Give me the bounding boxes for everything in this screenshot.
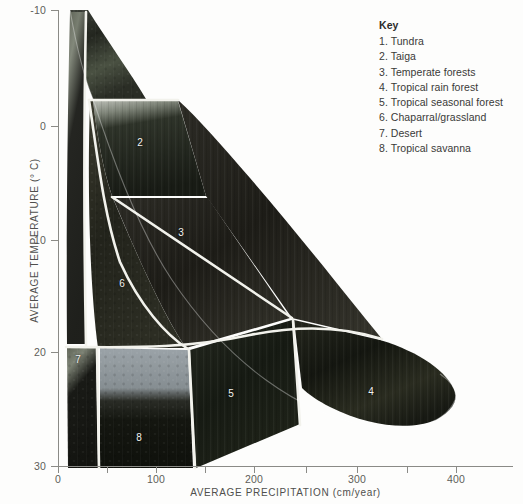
biome-boundaries: [66, 12, 382, 468]
y-tick-label: 30: [6, 460, 46, 472]
x-axis-line: [58, 466, 513, 467]
boundary-savanna-tropseasonal: [189, 350, 195, 468]
x-tick-label: 100: [136, 473, 176, 485]
legend-title: Key: [379, 19, 519, 31]
legend-item-tropical-seasonal-forest: 5. Tropical seasonal forest: [379, 95, 519, 110]
region-label-desert: 7: [75, 354, 81, 365]
x-tick-label: 200: [234, 473, 274, 485]
x-tick-mark-minor: [205, 466, 206, 473]
boundary-desert-savanna: [97, 347, 99, 468]
region-label-tropical-seasonal-forest: 5: [228, 388, 234, 399]
y-tick-label: 20: [6, 346, 46, 358]
legend-item-tundra: 1. Tundra: [379, 34, 519, 49]
region-label-chaparral-grassland: 6: [119, 278, 125, 289]
biome-climate-diagram: 2 3 4 5 6 7 8 -10 0 10 20 30 0 100 200 3…: [0, 0, 523, 504]
boundary-taiga-temperate: [112, 197, 292, 318]
x-axis-title: AVERAGE PRECIPITATION (cm/year): [58, 487, 513, 498]
legend-item-tropical-rain-forest: 4. Tropical rain forest: [379, 80, 519, 95]
region-label-tropical-rain-forest: 4: [368, 386, 374, 397]
y-tick-label: 10: [6, 234, 46, 246]
y-tick-mark: [51, 10, 58, 11]
x-tick-mark: [58, 466, 59, 473]
region-label-temperate-forests: 3: [178, 227, 184, 238]
x-tick-mark-minor: [306, 466, 307, 473]
x-tick-mark-minor: [107, 466, 108, 473]
region-taiga: [93, 101, 206, 196]
region-desert: [67, 346, 98, 468]
y-tick-mark: [51, 240, 58, 241]
y-tick-mark: [51, 126, 58, 127]
x-tick-mark: [254, 466, 255, 473]
x-tick-mark: [357, 466, 358, 473]
legend-item-temperate-forests: 3. Temperate forests: [379, 65, 519, 80]
x-tick-label: 0: [38, 473, 78, 485]
legend-item-tropical-savanna: 8. Tropical savanna: [379, 141, 519, 156]
region-upper-wedge: [178, 100, 382, 339]
x-tick-mark: [456, 466, 457, 473]
x-tick-mark-minor: [407, 466, 408, 473]
region-savanna: [100, 348, 193, 468]
legend-item-desert: 7. Desert: [379, 126, 519, 141]
region-temperate: [113, 198, 290, 348]
boundary-arid-sliver: [85, 12, 87, 346]
region-label-tropical-savanna: 8: [136, 432, 142, 443]
boundary-tropseasonal-rainforest: [293, 320, 300, 425]
region-tundra: [70, 10, 146, 99]
region-tropical-rain: [294, 320, 456, 426]
y-tick-mark: [51, 352, 58, 353]
y-tick-label: -10: [6, 4, 46, 16]
y-axis-line: [58, 10, 59, 467]
y-axis-title: AVERAGE TEMPERATURE (° C): [29, 131, 40, 351]
region-arid-sliver: [67, 12, 87, 344]
region-label-taiga: 2: [137, 137, 143, 148]
x-tick-mark: [156, 466, 157, 473]
boundary-temperate-tropical: [66, 329, 382, 348]
legend-item-chaparral-grassland: 6. Chaparral/grassland: [379, 110, 519, 125]
region-tropical-seasonal: [190, 320, 300, 468]
legend-key: Key 1. Tundra 2. Taiga 3. Temperate fore…: [379, 19, 519, 156]
legend-item-taiga: 2. Taiga: [379, 49, 519, 64]
x-tick-label: 400: [436, 473, 476, 485]
y-tick-label: 0: [6, 120, 46, 132]
y-tick-mark: [51, 466, 58, 467]
x-tick-label: 300: [337, 473, 377, 485]
